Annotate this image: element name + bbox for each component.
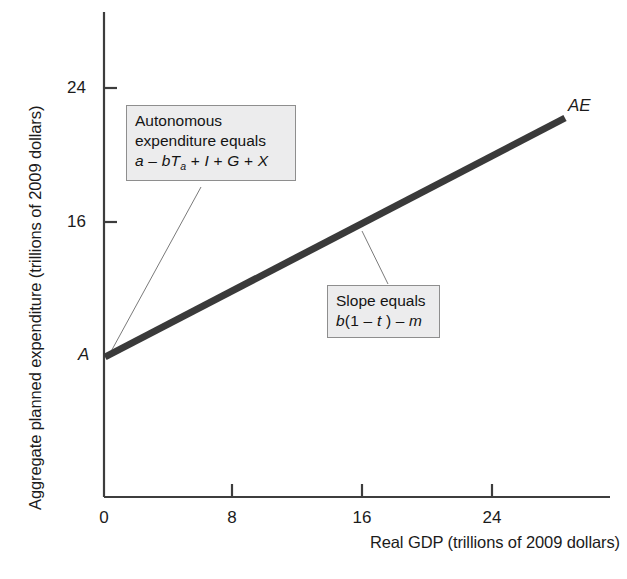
y-tick-label-16: 16 bbox=[44, 212, 86, 232]
formula-op-plus-1: + bbox=[186, 152, 204, 169]
x-tick-label-8: 8 bbox=[212, 508, 252, 528]
slope-op-minus-2: – bbox=[391, 312, 409, 329]
formula-var-T: T bbox=[171, 152, 181, 169]
callout-autonomous-formula: a – bTa + I + G + X bbox=[135, 151, 287, 174]
callout-autonomous-line1: Autonomous bbox=[135, 111, 287, 131]
formula-var-b: b bbox=[162, 152, 171, 169]
slope-var-b: b bbox=[336, 312, 345, 329]
formula-op-plus-3: + bbox=[240, 152, 258, 169]
leader-line-slope bbox=[362, 231, 388, 284]
formula-var-G: G bbox=[227, 152, 239, 169]
formula-op-plus-2: + bbox=[209, 152, 227, 169]
formula-op-minus: – bbox=[144, 152, 162, 169]
callout-autonomous-line2: expenditure equals bbox=[135, 131, 287, 151]
point-a-label: A bbox=[78, 345, 89, 365]
callout-slope: Slope equals b(1 – t ) – m bbox=[327, 285, 440, 338]
callout-slope-line1: Slope equals bbox=[336, 291, 431, 311]
slope-num-one: 1 bbox=[350, 312, 359, 329]
x-axis-title: Real GDP (trillions of 2009 dollars) bbox=[270, 533, 620, 552]
series-label-ae: AE bbox=[568, 96, 591, 116]
formula-var-X: X bbox=[258, 152, 269, 169]
slope-var-m: m bbox=[409, 312, 422, 329]
y-tick-label-24: 24 bbox=[44, 78, 86, 98]
callout-slope-formula: b(1 – t ) – m bbox=[336, 311, 431, 331]
slope-op-minus-1: – bbox=[359, 312, 377, 329]
x-tick-label-16: 16 bbox=[342, 508, 382, 528]
plot-canvas bbox=[0, 0, 627, 579]
x-tick-label-0: 0 bbox=[84, 508, 124, 528]
ae-curve-figure: Aggregate planned expenditure (trillions… bbox=[0, 0, 627, 579]
formula-var-a: a bbox=[135, 152, 144, 169]
callout-autonomous-expenditure: Autonomous expenditure equals a – bTa + … bbox=[126, 105, 296, 181]
slope-paren-close: ) bbox=[381, 312, 391, 329]
x-tick-label-24: 24 bbox=[472, 508, 512, 528]
